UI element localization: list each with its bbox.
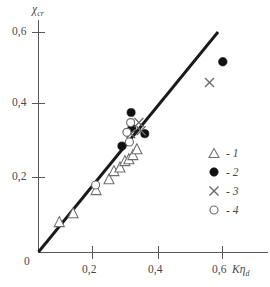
y-tick-label-0.4: 0,4 xyxy=(12,97,27,109)
data-point-filled-circle xyxy=(118,142,126,150)
filled-circle-icon xyxy=(205,163,223,181)
chart-legend: - 1 - 2 - 3 - 4 xyxy=(205,143,265,219)
data-point-filled-circle xyxy=(127,108,135,116)
data-point-cross xyxy=(205,78,214,87)
legend-number-1: 1 xyxy=(233,147,239,159)
x-tick-label-0.4: 0,4 xyxy=(148,264,163,276)
legend-item-1: - 1 xyxy=(205,143,265,162)
legend-number-3: 3 xyxy=(233,185,239,197)
data-point-filled-circle xyxy=(219,57,228,66)
x-tick-label-0.2: 0,2 xyxy=(82,264,97,276)
cross-icon xyxy=(205,182,223,200)
legend-label-1: - 1 xyxy=(223,147,238,159)
legend-dash-1: - xyxy=(226,147,230,159)
x-axis-title: Kηd xyxy=(232,264,250,278)
y-axis-title-sub: cr xyxy=(37,9,44,18)
legend-dash-2: - xyxy=(226,166,230,178)
y-tick-label-0.6: 0,6 xyxy=(12,26,27,38)
data-point-open-circle xyxy=(125,138,133,146)
x-axis-title-main: Kη xyxy=(232,263,246,275)
legend-label-4: - 4 xyxy=(223,204,238,216)
legend-item-4: - 4 xyxy=(205,200,265,219)
open-circle-icon xyxy=(205,201,223,219)
x-tick-label-0.6: 0,6 xyxy=(212,264,227,276)
legend-dash-4: - xyxy=(226,204,230,216)
legend-number-4: 4 xyxy=(233,204,239,216)
data-point-open-circle xyxy=(123,128,131,136)
x-axis-title-sub: d xyxy=(246,269,250,278)
data-point-cross xyxy=(134,118,143,127)
origin-tick-label-0: 0 xyxy=(24,256,30,268)
legend-item-3: - 3 xyxy=(205,181,265,200)
legend-label-2: - 2 xyxy=(223,166,238,178)
data-point-open-circle xyxy=(127,119,135,127)
y-tick-label-0.2: 0,2 xyxy=(12,171,27,183)
data-point-open-circle xyxy=(92,181,100,189)
open-triangle-icon xyxy=(205,144,223,162)
legend-number-2: 2 xyxy=(233,166,239,178)
legend-item-2: - 2 xyxy=(205,162,265,181)
legend-dash-3: - xyxy=(226,185,230,197)
chart-figure: χcr Kηd 0,6 0,4 0,2 0 0,2 0,4 0,6 - 1 - … xyxy=(0,0,270,287)
y-axis-title: χcr xyxy=(32,4,44,18)
data-point-triangle xyxy=(132,144,142,154)
series-3-crosses xyxy=(126,78,214,138)
legend-label-3: - 3 xyxy=(223,185,238,197)
